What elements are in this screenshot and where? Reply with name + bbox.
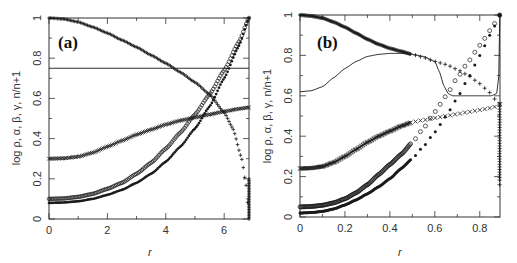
y-tick-label: 0 (282, 214, 294, 220)
y-tick-label: 0.6 (31, 91, 43, 106)
panel-b-xlabel: r (398, 246, 403, 258)
y-tick-label: 0.4 (31, 131, 43, 146)
panel-b-plot-area: 00.20.40.60.800.20.40.60.81 (282, 12, 502, 234)
y-tick-label: 0 (31, 216, 43, 222)
series-alpha (47, 106, 251, 161)
panel-a-ylabel: log ρ, α, β, γ, n/n+1 (10, 71, 22, 165)
panel-a-xlabel: r (148, 246, 153, 258)
x-tick-label: 0.4 (382, 222, 397, 234)
y-tick-label: 0.6 (282, 88, 294, 103)
panel-b-ylabel: log ρ, α, β, γ, n/n+1 (261, 69, 273, 163)
series-alpha (298, 102, 502, 171)
y-tick-label: 0.8 (31, 51, 43, 66)
panel-a: 024600.20.40.60.81 (a) r log ρ, α, β, γ,… (10, 15, 251, 258)
x-tick-label: 0 (297, 222, 303, 234)
x-tick-label: 0.2 (337, 222, 352, 234)
x-tick-label: 6 (221, 224, 227, 236)
x-tick-label: 2 (104, 224, 110, 236)
panel-a-label: (a) (58, 33, 78, 52)
axes-frame (49, 18, 249, 219)
panel-b-label: (b) (317, 33, 338, 52)
figure: 024600.20.40.60.81 (a) r log ρ, α, β, γ,… (0, 0, 517, 263)
y-tick-label: 0.8 (282, 48, 294, 63)
y-tick-label: 1 (31, 15, 43, 21)
x-tick-label: 0 (46, 224, 52, 236)
y-tick-label: 0.2 (282, 169, 294, 184)
y-tick-label: 0.2 (31, 171, 43, 186)
x-tick-label: 4 (163, 224, 169, 236)
x-tick-label: 0.8 (472, 222, 487, 234)
x-tick-label: 0.6 (427, 222, 442, 234)
panel-b: 00.20.40.60.800.20.40.60.81 (b) r log ρ,… (261, 12, 502, 258)
series-n-n-1 (300, 15, 500, 96)
y-tick-label: 1 (282, 12, 294, 18)
y-tick-label: 0.4 (282, 129, 294, 144)
